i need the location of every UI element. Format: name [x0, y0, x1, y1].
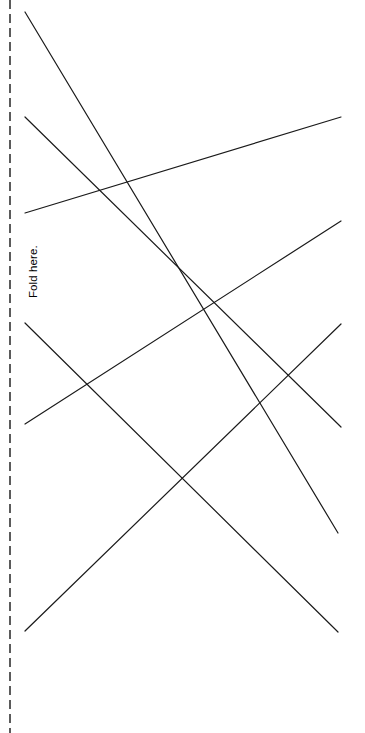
segment-3: [25, 117, 341, 213]
line-art-canvas: [0, 0, 365, 733]
puzzle-sheet: Fold here.: [0, 0, 365, 733]
segment-5: [25, 221, 341, 424]
line-segments-group: [25, 12, 341, 632]
segment-2: [25, 117, 341, 427]
fold-here-label: Fold here.: [26, 284, 96, 298]
segment-1: [25, 12, 338, 533]
